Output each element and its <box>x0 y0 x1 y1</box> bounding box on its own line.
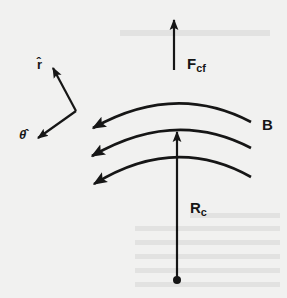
theta-hat-label: θ̂ <box>19 128 26 141</box>
curvature-radius-label: Rc <box>190 200 207 218</box>
magnetic-field-label: B <box>262 117 273 132</box>
bleed-through-texture <box>135 268 280 273</box>
theta-hat-arrow <box>38 111 76 138</box>
magnetic-field-line-1 <box>93 103 251 128</box>
bleed-through-texture <box>135 282 280 287</box>
curvature-radius-label-sub: c <box>201 206 207 218</box>
r-hat-label: r̂ <box>37 58 42 71</box>
curvature-radius-arrow <box>173 132 181 284</box>
magnetic-field-line-2 <box>92 130 251 156</box>
r-hat-arrow <box>53 68 76 111</box>
bleed-through-texture <box>120 30 270 36</box>
centrifugal-force-label-sub: cf <box>196 62 206 74</box>
curvature-radius-label-main: R <box>190 199 201 216</box>
bleed-through-texture <box>135 240 280 245</box>
centrifugal-force-label-main: F <box>187 55 196 72</box>
centrifugal-force-label: Fcf <box>187 56 206 74</box>
magnetic-field-line-3 <box>94 157 251 184</box>
bleed-through-texture <box>135 254 280 259</box>
bleed-through-texture <box>135 226 280 231</box>
